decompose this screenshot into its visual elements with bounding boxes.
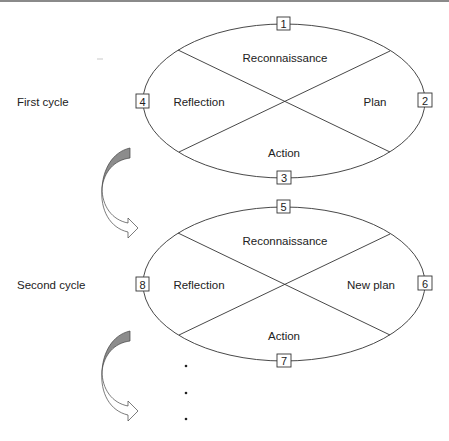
svg-text:3: 3 xyxy=(281,172,287,184)
action-research-diagram: Reconnaissance Reflection Plan Action Fi… xyxy=(0,0,449,441)
svg-text:1: 1 xyxy=(280,18,286,30)
svg-text:8: 8 xyxy=(139,279,145,291)
svg-text:2: 2 xyxy=(422,95,428,107)
cycle-label: Second cycle xyxy=(17,279,85,291)
marker-left: 8 xyxy=(136,277,149,291)
marker-top: 1 xyxy=(277,17,290,30)
marker-bottom: 3 xyxy=(277,171,291,184)
segment-left-label: Reflection xyxy=(173,279,224,291)
second-cycle: Reconnaissance Reflection New plan Actio… xyxy=(17,200,432,367)
segment-bottom-label: Action xyxy=(268,330,300,342)
cycle-label: First cycle xyxy=(17,96,69,108)
svg-text:4: 4 xyxy=(139,96,145,108)
marker-right: 6 xyxy=(418,276,432,290)
segment-right-label: New plan xyxy=(347,279,395,291)
marker-right: 2 xyxy=(418,93,432,107)
segment-top-label: Reconnaissance xyxy=(242,235,327,247)
segment-left-label: Reflection xyxy=(173,96,224,108)
curved-arrow-icon xyxy=(102,148,138,238)
segment-top-label: Reconnaissance xyxy=(242,52,327,64)
svg-text:7: 7 xyxy=(281,355,287,367)
segment-right-label: Plan xyxy=(363,96,386,108)
marker-top: 5 xyxy=(277,200,290,213)
svg-text:5: 5 xyxy=(280,201,286,213)
segment-bottom-label: Action xyxy=(268,147,300,159)
svg-text:6: 6 xyxy=(422,278,428,290)
continuation-ellipsis xyxy=(185,365,188,421)
curved-arrow-icon xyxy=(102,331,138,421)
marker-bottom: 7 xyxy=(277,354,291,367)
marker-left: 4 xyxy=(136,94,149,108)
first-cycle: Reconnaissance Reflection Plan Action Fi… xyxy=(17,17,432,184)
